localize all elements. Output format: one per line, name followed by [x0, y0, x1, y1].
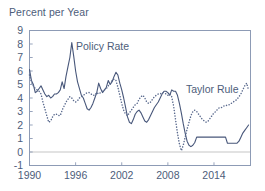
x-tick-label: 1996	[56, 170, 96, 181]
x-tick-label: 2014	[194, 170, 234, 181]
line-chart-plot	[0, 0, 265, 191]
y-tick-label: 7	[5, 52, 23, 63]
y-tick-label: 1	[5, 133, 23, 144]
y-tick-label: 0	[5, 147, 23, 158]
y-tick-label: 2	[5, 120, 23, 131]
y-tick-label: 9	[5, 25, 23, 36]
x-tick-label: 1990	[10, 170, 50, 181]
y-tick-label: 5	[5, 79, 23, 90]
y-tick-label: 6	[5, 66, 23, 77]
y-tick-label: 4	[5, 93, 23, 104]
y-tick-label: 8	[5, 39, 23, 50]
x-tick-label: 2008	[148, 170, 188, 181]
series-label-policy-rate: Policy Rate	[76, 40, 129, 52]
x-tick-label: 2002	[102, 170, 142, 181]
series-label-taylor-rule: Taylor Rule	[186, 83, 239, 95]
chart-figure: Percent per Year Policy Rate Taylor Rule…	[0, 0, 265, 191]
y-tick-label: 3	[5, 106, 23, 117]
